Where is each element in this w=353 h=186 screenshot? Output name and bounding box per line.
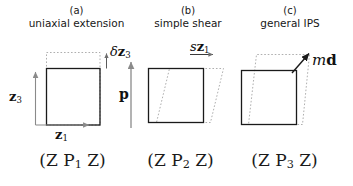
bottom-label-c: (Z P3 Z) (232, 152, 337, 171)
original-square-c (242, 71, 297, 125)
extended-shape-outline-a (47, 53, 101, 126)
bottom-label-b: (Z P2 Z) (128, 152, 233, 171)
sheared-shape-outline-b (157, 69, 224, 123)
axis-label-z1-subscript: 1 (62, 133, 67, 143)
habit-plane-normal-symbol: p (119, 86, 129, 102)
displacement-magnitude-symbol: m (312, 51, 326, 69)
axis-label-z3: z3 (9, 90, 22, 104)
total-displacement-arrow (292, 54, 309, 74)
bottom-label-b-suffix: Z) (190, 150, 214, 170)
bottom-label-a: (Z P1 Z) (20, 152, 125, 171)
axis-label-z1: z1 (55, 128, 68, 142)
bottom-label-a-subscript: 1 (75, 158, 82, 171)
bottom-label-c-prefix: (Z P (251, 150, 286, 170)
shear-direction-symbol: z (197, 39, 204, 54)
figure-root: (a) uniaxial extension (b) simple shear … (0, 0, 353, 186)
panel-b-graphic (149, 55, 224, 123)
bottom-label-b-subscript: 2 (183, 158, 190, 171)
label-total-displacement-md: md (312, 53, 337, 68)
panel-a-graphic (36, 53, 107, 126)
bottom-label-a-suffix: Z) (82, 150, 106, 170)
delta-symbol: δ (110, 44, 118, 59)
bottom-label-c-subscript: 3 (287, 158, 294, 171)
label-shear-sz1: sz1 (190, 40, 210, 54)
ips-shape-outline-c (249, 55, 310, 125)
label-delta-z3: δz3 (110, 45, 131, 59)
bottom-label-a-prefix: (Z P (39, 150, 74, 170)
label-habit-plane-normal: p (119, 87, 129, 101)
panel-c-graphic (242, 54, 310, 125)
bottom-label-b-prefix: (Z P (147, 150, 182, 170)
original-square-b (149, 69, 204, 123)
bottom-label-c-suffix: Z) (294, 150, 318, 170)
shear-magnitude-symbol: s (190, 39, 197, 54)
original-square-a (47, 69, 101, 126)
shear-direction-subscript: 1 (204, 45, 209, 55)
delta-z3-subscript: 3 (125, 50, 130, 60)
displacement-direction-symbol: d (326, 51, 337, 69)
axis-label-z3-subscript: 3 (16, 95, 21, 105)
